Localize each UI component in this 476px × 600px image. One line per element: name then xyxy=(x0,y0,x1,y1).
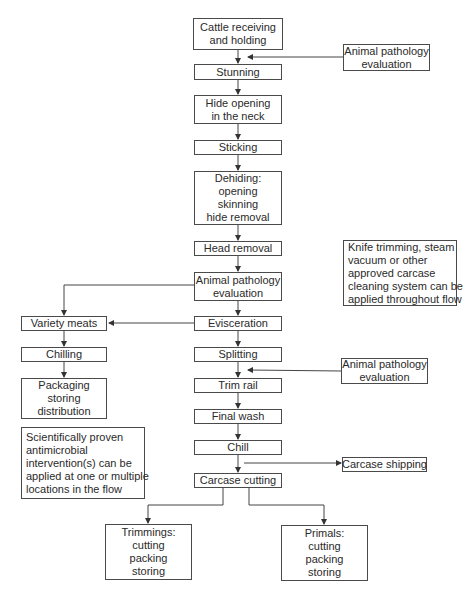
label: Cattle receiving xyxy=(200,21,276,34)
label: Carcase shipping xyxy=(342,458,427,471)
label: cutting xyxy=(132,539,164,552)
label: Trim rail xyxy=(218,379,257,392)
label: Splitting xyxy=(218,348,257,361)
label: antimicrobial xyxy=(26,444,88,457)
output-primals: Primals: cutting packing storing xyxy=(281,525,368,581)
label: opening xyxy=(218,185,257,198)
note-knife-trimming: Knife trimming, steam vacuum or other ap… xyxy=(343,240,457,306)
label: Scientifically proven xyxy=(26,431,123,444)
label: Dehiding: xyxy=(215,172,261,185)
label: cleaning system can be xyxy=(348,280,463,293)
label: vacuum or other xyxy=(348,254,427,267)
label: intervention(s) can be xyxy=(26,457,132,470)
label: Head removal xyxy=(204,242,272,255)
label: approved carcase xyxy=(348,267,435,280)
label: Animal pathology xyxy=(342,358,426,371)
side-pathology-mid: Animal pathology evaluation xyxy=(341,358,428,384)
label: Packaging xyxy=(38,379,89,392)
output-trimmings: Trimmings: cutting packing storing xyxy=(105,524,192,580)
step-final-wash: Final wash xyxy=(194,409,282,424)
label: storing xyxy=(132,565,165,578)
label: Stunning xyxy=(216,66,259,79)
label: storing xyxy=(47,392,80,405)
label: Variety meats xyxy=(31,317,97,330)
step-trim-rail: Trim rail xyxy=(194,378,282,393)
step-sticking: Sticking xyxy=(194,140,282,155)
label: Animal pathology xyxy=(344,45,428,58)
step-splitting: Splitting xyxy=(194,347,282,362)
branch-chilling: Chilling xyxy=(21,347,107,362)
label: Chill xyxy=(227,441,248,454)
label: distribution xyxy=(37,405,90,418)
step-evisceration: Evisceration xyxy=(194,316,282,331)
label: evaluation xyxy=(359,371,409,384)
label: in the neck xyxy=(211,110,264,123)
branch-variety-meats: Variety meats xyxy=(21,316,107,331)
step-dehiding: Dehiding: opening skinning hide removal xyxy=(194,171,282,225)
label: Primals: xyxy=(305,527,345,540)
step-hide-opening: Hide opening in the neck xyxy=(194,95,282,124)
branch-packaging: Packaging storing distribution xyxy=(21,378,107,419)
step-chill: Chill xyxy=(194,440,282,455)
side-pathology-top: Animal pathology evaluation xyxy=(343,44,430,71)
label: Carcase cutting xyxy=(200,474,276,487)
label: skinning xyxy=(218,198,258,211)
label: Evisceration xyxy=(208,317,268,330)
label: applied throughout flow xyxy=(348,293,462,306)
label: cutting xyxy=(308,540,340,553)
output-carcase-shipping: Carcase shipping xyxy=(342,457,427,472)
note-antimicrobial: Scientifically proven antimicrobial inte… xyxy=(21,427,145,499)
label: Hide opening xyxy=(206,97,271,110)
label: hide removal xyxy=(207,211,270,224)
label: Knife trimming, steam xyxy=(348,241,454,254)
label: Final wash xyxy=(212,410,265,423)
label: Animal pathology xyxy=(196,274,280,287)
label: evaluation xyxy=(361,58,411,71)
label: applied at one or multiple xyxy=(26,470,149,483)
label: Trimmings: xyxy=(122,526,176,539)
label: Sticking xyxy=(219,141,258,154)
step-cattle-receiving: Cattle receiving and holding xyxy=(193,18,283,50)
label: and holding xyxy=(210,34,267,47)
label: evaluation xyxy=(213,287,263,300)
step-pathology-evaluation: Animal pathology evaluation xyxy=(194,272,282,301)
step-stunning: Stunning xyxy=(194,64,282,80)
label: storing xyxy=(308,566,341,579)
label: locations in the flow xyxy=(26,483,122,496)
label: packing xyxy=(306,553,344,566)
label: Chilling xyxy=(46,348,82,361)
step-head-removal: Head removal xyxy=(194,241,282,256)
label: packing xyxy=(130,552,168,565)
step-carcase-cutting: Carcase cutting xyxy=(194,473,282,488)
